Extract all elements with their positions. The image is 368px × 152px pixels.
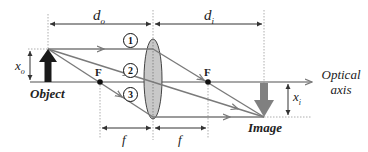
diagram-canvas xyxy=(0,0,368,152)
focal-point-left xyxy=(97,79,103,85)
object-distance-label: do xyxy=(93,8,105,26)
focal-length-right-label: f xyxy=(178,133,182,146)
object-label: Object xyxy=(30,87,65,100)
focal-length-left-label: f xyxy=(122,133,126,146)
focal-point-right-label: F xyxy=(204,67,211,78)
thin-lens-diagram: do di xo xi F F f f Object Image Optical… xyxy=(0,0,368,152)
ray-2-badge: 2 xyxy=(123,63,138,78)
ray-1-badge: 1 xyxy=(123,33,138,48)
ray-3-badge: 3 xyxy=(123,87,138,102)
object-arrow xyxy=(39,49,57,82)
focal-point-left-label: F xyxy=(95,67,102,78)
image-label: Image xyxy=(248,121,282,134)
image-distance-label: di xyxy=(204,8,214,26)
object-height-label: xo xyxy=(15,59,25,76)
focal-point-right xyxy=(205,79,211,85)
image-height-label: xi xyxy=(293,90,301,107)
optical-axis-label: Optical axis xyxy=(316,68,366,96)
